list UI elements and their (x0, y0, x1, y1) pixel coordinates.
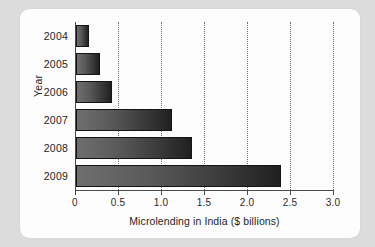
bar (76, 53, 100, 75)
bar (76, 25, 89, 47)
x-tick-mark (118, 191, 119, 195)
x-tick-label: 2.0 (227, 197, 267, 208)
bar (76, 109, 172, 131)
y-tick-label: 2006 (44, 86, 68, 98)
y-axis-title: Year (32, 75, 44, 97)
x-tick-label: 0 (55, 197, 95, 208)
x-tick-mark (247, 191, 248, 195)
bar (76, 81, 112, 103)
x-tick-mark (75, 191, 76, 195)
y-tick-label: 2005 (44, 58, 68, 70)
gridline (290, 22, 291, 190)
x-tick-label: 0.5 (98, 197, 138, 208)
y-tick-label: 2004 (44, 30, 68, 42)
x-tick-mark (161, 191, 162, 195)
x-tick-mark (204, 191, 205, 195)
x-tick-mark (333, 191, 334, 195)
chart-card: Year 00.51.01.52.02.53.0 200420052006200… (20, 9, 360, 238)
y-tick-label: 2009 (44, 170, 68, 182)
gridline (333, 22, 334, 190)
x-axis-title: Microlending in India ($ billions) (75, 215, 334, 227)
x-tick-label: 1.0 (141, 197, 181, 208)
x-tick-label: 2.5 (270, 197, 310, 208)
y-tick-label: 2007 (44, 114, 68, 126)
plot-area: 00.51.01.52.02.53.0 20042005200620072008… (75, 22, 333, 190)
y-tick-label: 2008 (44, 142, 68, 154)
x-tick-label: 1.5 (184, 197, 224, 208)
x-tick-label: 3.0 (313, 197, 353, 208)
x-tick-mark (290, 191, 291, 195)
bar (76, 165, 281, 187)
bar (76, 137, 192, 159)
